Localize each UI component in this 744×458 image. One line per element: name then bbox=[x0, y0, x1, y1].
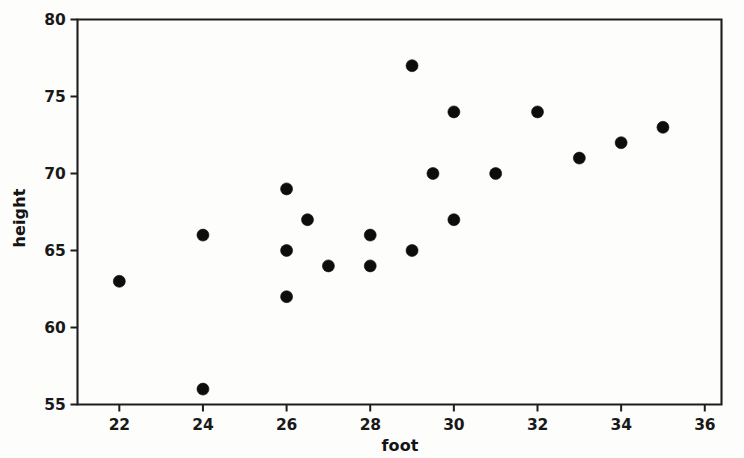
data-point bbox=[448, 214, 460, 226]
data-point bbox=[448, 106, 460, 118]
data-point bbox=[322, 260, 334, 272]
x-tick-label: 26 bbox=[276, 416, 297, 434]
data-point bbox=[657, 121, 669, 133]
data-point bbox=[615, 137, 627, 149]
x-tick-label: 24 bbox=[192, 416, 214, 434]
y-tick-label: 55 bbox=[44, 396, 65, 414]
plot-axis-frame bbox=[78, 20, 722, 405]
y-tick-label: 80 bbox=[44, 11, 66, 29]
data-point bbox=[364, 260, 376, 272]
x-tick-label: 34 bbox=[611, 416, 633, 434]
data-point bbox=[281, 291, 293, 303]
y-tick-label: 70 bbox=[44, 165, 66, 183]
x-tick-label: 36 bbox=[694, 416, 715, 434]
y-tick-label: 65 bbox=[44, 242, 65, 260]
scatter-plot-figure: 556065707580 2224262830323436 foot heigh… bbox=[0, 0, 744, 458]
data-point bbox=[197, 383, 209, 395]
y-tick-label: 60 bbox=[44, 319, 66, 337]
data-point bbox=[113, 275, 125, 287]
y-tick-label: 75 bbox=[44, 88, 65, 106]
plot-canvas: 556065707580 2224262830323436 foot heigh… bbox=[0, 0, 744, 458]
data-point bbox=[427, 168, 439, 180]
x-tick-label: 22 bbox=[109, 416, 130, 434]
data-point bbox=[302, 214, 314, 226]
x-tick-label: 30 bbox=[443, 416, 465, 434]
x-tick-label: 28 bbox=[360, 416, 381, 434]
y-axis-title: height bbox=[10, 188, 29, 247]
y-axis-tick-labels: 556065707580 bbox=[44, 11, 66, 414]
x-axis-title: foot bbox=[382, 436, 419, 455]
data-points-layer bbox=[113, 60, 669, 395]
x-axis-tick-labels: 2224262830323436 bbox=[109, 416, 716, 434]
data-point bbox=[281, 245, 293, 257]
data-point bbox=[573, 152, 585, 164]
data-point bbox=[281, 183, 293, 195]
x-tick-label: 32 bbox=[527, 416, 548, 434]
data-point bbox=[490, 168, 502, 180]
data-point bbox=[406, 60, 418, 72]
data-point bbox=[406, 245, 418, 257]
data-point bbox=[364, 229, 376, 241]
data-point bbox=[197, 229, 209, 241]
data-point bbox=[532, 106, 544, 118]
